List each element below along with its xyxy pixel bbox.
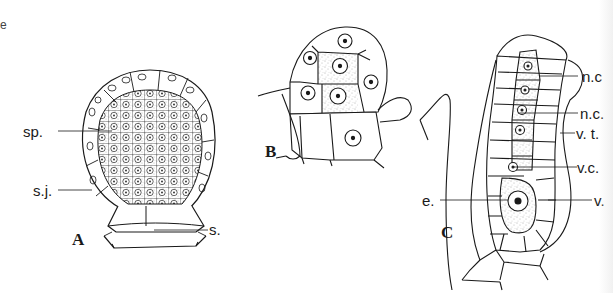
label-sporangium-jacket: s.j.	[33, 183, 52, 198]
label-ventral-canal-cell: v.c.	[577, 160, 599, 175]
figure-b-archegonium-initial	[258, 27, 411, 168]
figure-letter-b: B	[265, 143, 276, 160]
label-venter-tissue: v. t.	[576, 126, 599, 141]
figure-letter-c: C	[441, 224, 453, 241]
page-edge-shadow	[599, 0, 613, 293]
label-sporogenous-tissue: sp.	[23, 124, 43, 139]
diagram-svg	[0, 0, 613, 293]
figure-letter-a: A	[72, 231, 84, 248]
diagram-canvas: e sp. s.j. s. A B n.c n.c. v. t. v.c. e.…	[0, 0, 613, 293]
stray-mark: e	[0, 18, 7, 32]
label-egg: e.	[422, 193, 435, 208]
label-stalk: s.	[209, 222, 221, 237]
figure-c-mature-archegonium	[420, 35, 592, 290]
figure-a-sporangium	[58, 70, 215, 248]
